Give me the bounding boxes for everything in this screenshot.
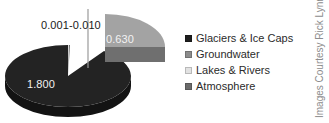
legend-swatch-icon-groundwater (185, 51, 192, 58)
legend-swatch-icon-atmosphere (185, 83, 192, 90)
pie-chart-plot-area: 0.001-0.010 0.630 1.800 (0, 0, 180, 123)
legend-label-glaciers-ice-caps: Glaciers & Ice Caps (196, 33, 293, 44)
pie-chart-figure: 0.001-0.010 0.630 1.800 Glaciers & Ice C… (0, 0, 329, 123)
legend-label-lakes-rivers: Lakes & Rivers (196, 65, 270, 76)
legend-item-glaciers-ice-caps[interactable]: Glaciers & Ice Caps (185, 31, 305, 46)
glaciers-value-label: 1.800 (27, 79, 55, 90)
minor-slices-value-label: 0.001-0.010 (41, 20, 101, 31)
legend-label-atmosphere: Atmosphere (196, 81, 255, 92)
image-credit-text: Images Courtesy Rick Lynn (315, 0, 325, 118)
legend-swatch-icon-lakes-rivers (185, 67, 192, 74)
legend-item-atmosphere[interactable]: Atmosphere (185, 79, 305, 94)
pie-slice-groundwater-side-curve (105, 47, 165, 62)
legend-item-groundwater[interactable]: Groundwater (185, 47, 305, 62)
groundwater-value-label: 0.630 (106, 34, 134, 45)
legend-label-groundwater: Groundwater (196, 49, 260, 60)
image-credit: Images Courtesy Rick Lynn (313, 0, 329, 123)
legend-swatch-icon-glaciers-ice-caps (185, 35, 192, 42)
chart-legend: Glaciers & Ice Caps Groundwater Lakes & … (185, 31, 305, 95)
legend-item-lakes-rivers[interactable]: Lakes & Rivers (185, 63, 305, 78)
